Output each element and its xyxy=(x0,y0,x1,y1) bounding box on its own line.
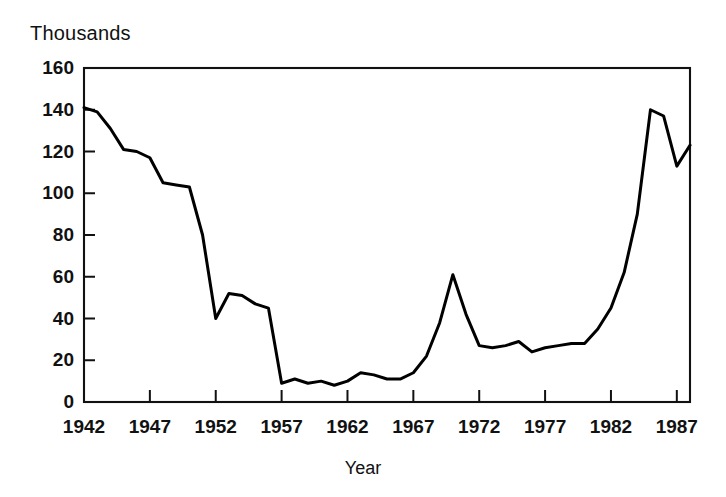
y-tick-label: 100 xyxy=(18,182,74,204)
y-tick-label: 120 xyxy=(18,141,74,163)
y-tick-label: 20 xyxy=(18,349,74,371)
series-line-value xyxy=(84,108,690,386)
plot-border xyxy=(84,68,690,402)
y-tick-label: 40 xyxy=(18,308,74,330)
y-tick-label: 80 xyxy=(18,224,74,246)
y-tick-label: 0 xyxy=(18,391,74,413)
x-tick-label: 1962 xyxy=(326,416,368,438)
x-tick-label: 1982 xyxy=(590,416,632,438)
x-tick-label: 1952 xyxy=(195,416,237,438)
line-chart-figure: Thousands 020406080100120140160 19421947… xyxy=(0,0,726,497)
x-tick-label: 1942 xyxy=(63,416,105,438)
x-tick-label: 1967 xyxy=(392,416,434,438)
x-tick-label: 1977 xyxy=(524,416,566,438)
x-tick-label: 1972 xyxy=(458,416,500,438)
y-tick-label: 160 xyxy=(18,57,74,79)
axis-frame xyxy=(84,68,690,402)
data-series-group xyxy=(84,108,690,386)
y-tick-label: 60 xyxy=(18,266,74,288)
x-tick-label: 1957 xyxy=(260,416,302,438)
x-tick-label: 1947 xyxy=(129,416,171,438)
x-axis-ticks xyxy=(84,390,677,402)
y-axis-ticks xyxy=(84,110,95,361)
y-tick-label: 140 xyxy=(18,99,74,121)
x-tick-label: 1987 xyxy=(656,416,698,438)
x-axis-title: Year xyxy=(0,458,726,479)
